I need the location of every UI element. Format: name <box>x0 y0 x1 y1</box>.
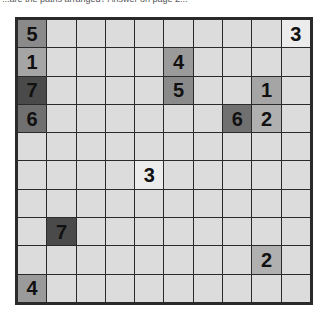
grid-cell[interactable] <box>164 246 192 273</box>
grid-cell[interactable] <box>106 105 134 132</box>
grid-cell[interactable] <box>223 246 251 273</box>
grid-cell[interactable] <box>194 275 222 302</box>
grid-cell[interactable] <box>194 105 222 132</box>
grid-cell[interactable] <box>77 218 105 245</box>
grid-cell[interactable] <box>18 190 46 217</box>
grid-cell[interactable] <box>106 20 134 47</box>
clue-cell[interactable]: 3 <box>282 20 310 47</box>
grid-cell[interactable] <box>77 190 105 217</box>
grid-cell[interactable] <box>47 190 75 217</box>
grid-cell[interactable] <box>106 161 134 188</box>
grid-cell[interactable] <box>77 246 105 273</box>
grid-cell[interactable] <box>77 133 105 160</box>
grid-cell[interactable] <box>77 275 105 302</box>
grid-cell[interactable] <box>106 246 134 273</box>
grid-cell[interactable] <box>47 48 75 75</box>
grid-cell[interactable] <box>282 246 310 273</box>
grid-cell[interactable] <box>282 105 310 132</box>
grid-cell[interactable] <box>18 218 46 245</box>
grid-cell[interactable] <box>135 20 163 47</box>
grid-cell[interactable] <box>252 161 280 188</box>
grid-cell[interactable] <box>47 133 75 160</box>
grid-cell[interactable] <box>47 161 75 188</box>
grid-cell[interactable] <box>47 246 75 273</box>
grid-cell[interactable] <box>282 77 310 104</box>
grid-cell[interactable] <box>223 20 251 47</box>
grid-cell[interactable] <box>164 218 192 245</box>
grid-cell[interactable] <box>223 77 251 104</box>
grid-cell[interactable] <box>77 161 105 188</box>
clue-cell[interactable]: 2 <box>252 246 280 273</box>
grid-cell[interactable] <box>106 133 134 160</box>
grid-cell[interactable] <box>164 275 192 302</box>
clue-cell[interactable]: 5 <box>164 77 192 104</box>
clue-cell[interactable]: 7 <box>47 218 75 245</box>
grid-cell[interactable] <box>194 133 222 160</box>
grid-cell[interactable] <box>164 190 192 217</box>
grid-cell[interactable] <box>135 48 163 75</box>
grid-cell[interactable] <box>106 190 134 217</box>
grid-cell[interactable] <box>194 77 222 104</box>
grid-cell[interactable] <box>135 275 163 302</box>
grid-cell[interactable] <box>194 161 222 188</box>
grid-cell[interactable] <box>252 133 280 160</box>
grid-cell[interactable] <box>252 190 280 217</box>
clue-cell[interactable]: 1 <box>18 48 46 75</box>
clue-cell[interactable]: 6 <box>18 105 46 132</box>
grid-cell[interactable] <box>47 77 75 104</box>
grid-cell[interactable] <box>164 105 192 132</box>
clue-cell[interactable]: 6 <box>223 105 251 132</box>
grid-cell[interactable] <box>282 161 310 188</box>
grid-cell[interactable] <box>223 190 251 217</box>
grid-cell[interactable] <box>135 190 163 217</box>
grid-cell[interactable] <box>106 218 134 245</box>
grid-cell[interactable] <box>223 133 251 160</box>
grid-cell[interactable] <box>77 48 105 75</box>
clue-cell[interactable]: 1 <box>252 77 280 104</box>
grid-cell[interactable] <box>106 48 134 75</box>
grid-cell[interactable] <box>282 218 310 245</box>
grid-cell[interactable] <box>223 275 251 302</box>
clue-cell[interactable]: 2 <box>252 105 280 132</box>
grid-cell[interactable] <box>77 77 105 104</box>
grid-cell[interactable] <box>194 246 222 273</box>
grid-cell[interactable] <box>77 20 105 47</box>
grid-cell[interactable] <box>282 48 310 75</box>
grid-cell[interactable] <box>135 218 163 245</box>
grid-cell[interactable] <box>106 275 134 302</box>
grid-cell[interactable] <box>223 218 251 245</box>
grid-cell[interactable] <box>47 105 75 132</box>
grid-cell[interactable] <box>106 77 134 104</box>
grid-cell[interactable] <box>252 218 280 245</box>
grid-cell[interactable] <box>135 105 163 132</box>
grid-cell[interactable] <box>164 161 192 188</box>
grid-cell[interactable] <box>164 20 192 47</box>
grid-cell[interactable] <box>252 48 280 75</box>
grid-cell[interactable] <box>194 48 222 75</box>
clue-cell[interactable]: 4 <box>164 48 192 75</box>
grid-cell[interactable] <box>135 77 163 104</box>
grid-cell[interactable] <box>252 275 280 302</box>
clue-cell[interactable]: 3 <box>135 161 163 188</box>
grid-cell[interactable] <box>164 133 192 160</box>
clue-cell[interactable]: 4 <box>18 275 46 302</box>
grid-cell[interactable] <box>47 20 75 47</box>
grid-cell[interactable] <box>252 20 280 47</box>
grid-cell[interactable] <box>47 275 75 302</box>
grid-cell[interactable] <box>135 246 163 273</box>
clue-cell[interactable]: 7 <box>18 77 46 104</box>
grid-cell[interactable] <box>77 105 105 132</box>
grid-cell[interactable] <box>194 20 222 47</box>
grid-cell[interactable] <box>18 246 46 273</box>
grid-cell[interactable] <box>135 133 163 160</box>
grid-cell[interactable] <box>18 161 46 188</box>
clue-cell[interactable]: 5 <box>18 20 46 47</box>
grid-cell[interactable] <box>282 133 310 160</box>
grid-cell[interactable] <box>194 190 222 217</box>
grid-cell[interactable] <box>194 218 222 245</box>
grid-cell[interactable] <box>223 48 251 75</box>
grid-cell[interactable] <box>223 161 251 188</box>
grid-cell[interactable] <box>18 133 46 160</box>
grid-cell[interactable] <box>282 190 310 217</box>
grid-cell[interactable] <box>282 275 310 302</box>
